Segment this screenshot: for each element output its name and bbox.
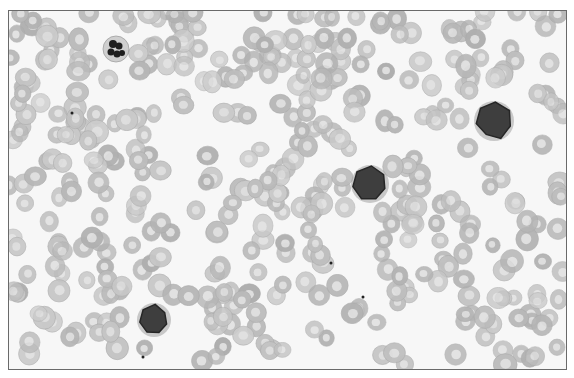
red-blood-cell [102, 321, 120, 342]
red-blood-cell [256, 37, 273, 53]
red-blood-cell [352, 56, 369, 73]
red-blood-cell [298, 136, 318, 157]
red-blood-cell [459, 223, 478, 244]
debris-speck [142, 356, 145, 359]
red-blood-cell [402, 214, 425, 234]
red-blood-cell [206, 221, 228, 242]
red-blood-cell [505, 192, 525, 213]
red-blood-cell [243, 242, 260, 260]
red-blood-cell [392, 267, 408, 286]
debris-speck [330, 262, 333, 265]
neutrophil-nucleus-lobe [116, 43, 123, 50]
red-blood-cell [481, 161, 499, 177]
red-blood-cell [416, 266, 434, 282]
red-blood-cell [79, 11, 99, 23]
neutrophil-nucleus-lobe [119, 50, 125, 56]
red-blood-cell [11, 123, 28, 141]
red-blood-cell [313, 115, 332, 133]
red-blood-cell [456, 307, 474, 322]
red-blood-cell [66, 82, 89, 102]
red-blood-cell [14, 85, 31, 103]
red-blood-cell [547, 218, 566, 239]
red-blood-cell [198, 174, 214, 190]
cell-field [9, 11, 566, 369]
red-blood-cell [124, 237, 141, 254]
red-blood-cell [216, 284, 233, 302]
red-blood-cell [91, 207, 108, 225]
red-blood-cell [454, 243, 473, 264]
red-blood-cell [53, 242, 73, 261]
red-blood-cell [61, 327, 80, 347]
red-blood-cell [296, 67, 310, 84]
red-blood-cell [301, 35, 317, 53]
red-blood-cell [208, 348, 225, 364]
red-blood-cell [15, 68, 36, 87]
red-blood-cell [213, 103, 235, 122]
red-blood-cell [150, 213, 170, 233]
red-blood-cell [36, 25, 58, 47]
red-blood-cell [482, 178, 498, 195]
red-blood-cell [149, 161, 171, 180]
red-blood-cell [422, 74, 441, 96]
red-blood-cell [383, 343, 405, 363]
red-blood-cell [387, 116, 403, 133]
red-blood-cell [373, 202, 391, 222]
red-blood-cell [129, 151, 148, 169]
red-blood-cell [84, 152, 103, 168]
red-blood-cell [458, 286, 480, 306]
red-blood-cell [276, 234, 295, 252]
red-blood-cell [17, 195, 34, 212]
red-blood-cell [210, 51, 228, 67]
red-blood-cell [372, 12, 389, 30]
red-blood-cell [456, 54, 477, 78]
red-blood-cell [529, 292, 547, 308]
red-blood-cell [157, 53, 177, 75]
red-blood-cell [197, 146, 218, 165]
red-blood-cell [443, 23, 463, 43]
red-blood-cell [67, 61, 91, 81]
red-blood-cell [409, 52, 432, 72]
red-blood-cell [233, 326, 254, 345]
red-blood-cell [540, 53, 559, 73]
red-blood-cell [309, 285, 330, 306]
red-blood-cell [146, 36, 163, 54]
red-blood-cell [270, 94, 292, 113]
red-blood-cell [136, 126, 151, 144]
red-blood-cell [329, 129, 351, 150]
red-blood-cell [57, 127, 74, 143]
red-blood-cell [428, 215, 444, 232]
red-blood-cell [253, 214, 273, 237]
red-blood-cell [368, 314, 387, 330]
red-blood-cell [213, 307, 232, 326]
red-blood-cell [332, 168, 353, 186]
red-blood-cell [48, 280, 70, 302]
red-blood-cell [453, 270, 474, 288]
red-blood-cell [53, 153, 72, 172]
red-blood-cell [432, 233, 448, 248]
debris-speck [71, 112, 74, 115]
red-blood-cell [246, 303, 266, 323]
red-blood-cell [375, 231, 392, 248]
red-blood-cell [146, 105, 161, 123]
red-blood-cell [238, 106, 256, 124]
red-blood-cell [129, 61, 150, 80]
red-blood-cell [81, 227, 103, 248]
red-blood-cell [392, 180, 408, 198]
red-blood-cell [532, 315, 553, 336]
red-blood-cell [99, 70, 118, 89]
red-blood-cell [400, 70, 419, 88]
red-blood-cell [474, 306, 495, 329]
red-blood-cell [552, 188, 566, 205]
red-blood-cell [526, 347, 545, 366]
red-blood-cell [210, 256, 230, 279]
red-blood-cell [19, 332, 40, 353]
red-blood-cell [534, 254, 551, 270]
blood-smear-micrograph [8, 10, 567, 370]
neutrophil [103, 36, 129, 62]
red-blood-cell [49, 106, 67, 123]
red-blood-cell [441, 191, 461, 212]
red-blood-cell [233, 291, 251, 308]
red-blood-cell [79, 272, 95, 289]
debris-speck [362, 296, 365, 299]
red-blood-cell [465, 29, 485, 49]
